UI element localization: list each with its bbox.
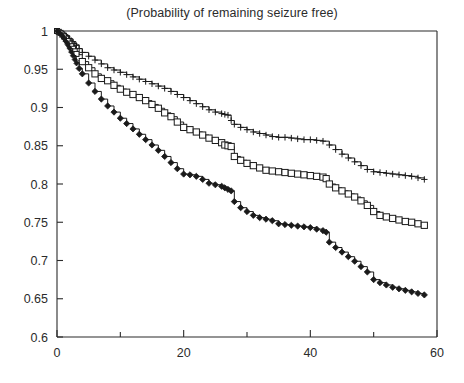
marker-square-icon [250, 163, 256, 169]
y-tick-label: 0.65 [24, 292, 48, 306]
marker-square-icon [174, 119, 180, 125]
marker-diamond-icon [301, 224, 307, 230]
marker-diamond-icon [276, 221, 282, 227]
marker-diamond-icon [402, 287, 408, 293]
marker-diamond-icon [238, 205, 244, 211]
marker-square-icon [402, 218, 408, 224]
marker-diamond-icon [143, 137, 149, 143]
marker-diamond-icon [352, 258, 358, 264]
marker-square-icon [383, 214, 389, 220]
marker-diamond-icon [295, 223, 301, 229]
marker-square-icon [149, 101, 155, 107]
marker-diamond-icon [181, 171, 187, 177]
marker-square-icon [111, 82, 117, 88]
chart-plot-area: 0.60.650.70.750.80.850.90.951 0204060 [0, 0, 464, 383]
data-series-group [54, 28, 427, 298]
marker-square-icon [212, 137, 218, 143]
marker-diamond-icon [105, 103, 111, 109]
y-tick-label: 1 [41, 25, 48, 39]
marker-diamond-icon [130, 126, 136, 132]
x-axis-ticks: 0204060 [54, 330, 444, 360]
marker-diamond-icon [371, 277, 377, 283]
marker-diamond-icon [263, 216, 269, 222]
marker-square-icon [390, 215, 396, 221]
marker-square-icon [421, 222, 427, 228]
y-tick-label: 0.95 [24, 63, 48, 77]
marker-square-icon [228, 143, 234, 149]
marker-square-icon [98, 75, 104, 81]
marker-diamond-icon [79, 71, 85, 77]
x-tick-label: 60 [430, 346, 444, 360]
marker-square-icon [352, 194, 358, 200]
x-tick-label: 0 [54, 346, 61, 360]
marker-square-icon [206, 135, 212, 141]
marker-square-icon [371, 208, 377, 214]
marker-diamond-icon [307, 225, 313, 231]
marker-square-icon [307, 172, 313, 178]
marker-square-icon [364, 202, 370, 208]
y-tick-label: 0.7 [31, 254, 48, 268]
marker-diamond-icon [358, 264, 364, 270]
marker-diamond-icon [231, 198, 237, 204]
marker-diamond-icon [212, 182, 218, 188]
marker-square-icon [238, 157, 244, 163]
marker-diamond-icon [155, 147, 161, 153]
marker-square-icon [124, 89, 130, 95]
marker-diamond-icon [314, 226, 320, 232]
marker-diamond-icon [76, 65, 82, 71]
marker-square-icon [326, 181, 332, 187]
marker-diamond-icon [117, 115, 123, 121]
marker-diamond-icon [168, 159, 174, 165]
marker-diamond-icon [409, 289, 415, 295]
marker-square-icon [409, 219, 415, 225]
marker-diamond-icon [200, 176, 206, 182]
x-tick-label: 20 [177, 346, 191, 360]
marker-diamond-icon [326, 239, 332, 245]
y-tick-label: 0.9 [31, 101, 48, 115]
marker-diamond-icon [174, 166, 180, 172]
marker-square-icon [200, 132, 206, 138]
marker-diamond-icon [206, 180, 212, 186]
marker-square-icon [269, 168, 275, 174]
marker-diamond-icon [187, 172, 193, 178]
y-tick-label: 0.75 [24, 216, 48, 230]
x-tick-label: 40 [303, 346, 317, 360]
marker-square-icon [143, 98, 149, 104]
marker-diamond-icon [269, 218, 275, 224]
marker-diamond-icon [333, 244, 339, 250]
marker-square-icon [345, 191, 351, 197]
marker-square-icon [263, 167, 269, 173]
marker-square-icon [377, 212, 383, 218]
plot-frame [57, 31, 437, 337]
marker-diamond-icon [396, 286, 402, 292]
marker-diamond-icon [98, 96, 104, 102]
y-tick-label: 0.85 [24, 139, 48, 153]
marker-diamond-icon [339, 249, 345, 255]
marker-square-icon [86, 65, 92, 71]
marker-diamond-icon [288, 222, 294, 228]
marker-square-icon [257, 165, 263, 171]
marker-square-icon [79, 59, 85, 65]
marker-square-icon [288, 170, 294, 176]
marker-diamond-icon [345, 254, 351, 260]
marker-square-icon [339, 188, 345, 194]
marker-square-icon [181, 124, 187, 130]
marker-square-icon [136, 94, 142, 100]
marker-diamond-icon [415, 290, 421, 296]
marker-square-icon [155, 105, 161, 111]
marker-square-icon [231, 153, 237, 159]
series-markers-middle-curve [76, 55, 427, 229]
marker-square-icon [193, 129, 199, 135]
y-tick-label: 0.8 [31, 178, 48, 192]
marker-square-icon [333, 185, 339, 191]
marker-diamond-icon [136, 131, 142, 137]
marker-square-icon [396, 217, 402, 223]
series-markers-lower-curve [76, 65, 427, 298]
marker-diamond-icon [193, 173, 199, 179]
marker-diamond-icon [250, 212, 256, 218]
marker-square-icon [117, 86, 123, 92]
marker-square-icon [187, 127, 193, 133]
marker-diamond-icon [86, 80, 92, 86]
marker-diamond-icon [421, 292, 427, 298]
chart-container: (Probability of remaining seizure free) … [0, 0, 464, 383]
